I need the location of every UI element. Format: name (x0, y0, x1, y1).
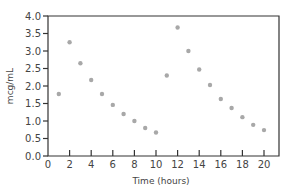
data-point (251, 123, 255, 127)
x-tick-label: 2 (66, 159, 72, 170)
data-point (262, 128, 266, 132)
y-tick-label: 0.5 (25, 133, 41, 144)
data-point (78, 61, 82, 65)
x-tick-label: 8 (131, 159, 137, 170)
y-axis-label: mcg/mL (5, 68, 15, 104)
x-axis: 02468101214161820 (45, 150, 271, 170)
x-tick-label: 14 (193, 159, 206, 170)
y-tick-label: 4.0 (25, 11, 41, 22)
data-point (197, 67, 201, 71)
x-tick-label: 20 (258, 159, 271, 170)
y-tick-label: 0.0 (25, 151, 41, 162)
scatter-chart: 0.00.51.01.52.02.53.03.54.0 024681012141… (0, 0, 288, 191)
data-point (121, 112, 125, 116)
data-point (132, 119, 136, 123)
x-tick-label: 10 (150, 159, 163, 170)
x-axis-label: Time (hours) (131, 176, 189, 186)
data-point (57, 92, 61, 96)
data-point (175, 25, 179, 29)
data-point (229, 106, 233, 110)
plot-frame (48, 16, 279, 156)
y-tick-label: 2.0 (25, 81, 41, 92)
x-tick-label: 6 (110, 159, 116, 170)
y-axis: 0.00.51.01.52.02.53.03.54.0 (25, 11, 48, 162)
x-tick-label: 4 (88, 159, 94, 170)
y-tick-label: 3.5 (25, 28, 41, 39)
y-tick-label: 1.5 (25, 98, 41, 109)
data-point (219, 97, 223, 101)
data-point (100, 92, 104, 96)
x-tick-label: 16 (214, 159, 227, 170)
x-tick-label: 18 (236, 159, 249, 170)
x-tick-label: 12 (171, 159, 184, 170)
data-point (67, 40, 71, 44)
x-tick-label: 0 (45, 159, 51, 170)
y-tick-label: 1.0 (25, 116, 41, 127)
data-point (186, 49, 190, 53)
data-point (111, 103, 115, 107)
data-points (57, 25, 267, 134)
y-tick-label: 2.5 (25, 63, 41, 74)
plot-border (48, 16, 279, 156)
data-point (143, 126, 147, 130)
data-point (208, 83, 212, 87)
data-point (154, 130, 158, 134)
data-point (89, 78, 93, 82)
y-tick-label: 3.0 (25, 46, 41, 57)
data-point (240, 115, 244, 119)
data-point (165, 73, 169, 77)
